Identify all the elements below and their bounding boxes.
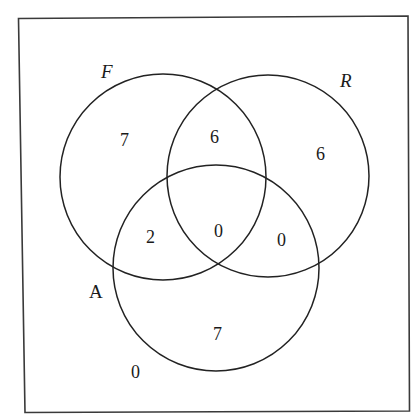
set-r-label: R	[339, 70, 352, 91]
region-outside-count: 0	[131, 362, 140, 382]
region-f-a-only-count: 2	[146, 227, 155, 247]
region-f-r-a-count: 0	[214, 221, 223, 241]
region-r-only-count: 6	[316, 144, 325, 164]
region-a-only-count: 7	[213, 324, 222, 344]
region-f-r-only-count: 6	[210, 127, 219, 147]
set-r-circle	[167, 75, 369, 277]
set-a-label: A	[89, 281, 103, 302]
region-r-a-only-count: 0	[277, 230, 286, 250]
set-f-label: F	[100, 61, 113, 82]
region-f-only-count: 7	[120, 130, 129, 150]
set-f-circle	[60, 74, 266, 280]
venn-diagram: F R A 7 6 6 2 0 0 7 0	[0, 0, 419, 414]
